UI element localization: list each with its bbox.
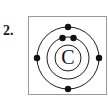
element-symbol-label: C — [61, 46, 74, 68]
inner-electron-1-dot — [59, 35, 65, 41]
screenshot-root: 2. C — [0, 0, 108, 102]
outer-electron-right-dot — [96, 55, 102, 61]
atomic-diagram-box: C — [28, 16, 107, 95]
outer-electron-top-dot — [65, 24, 71, 30]
outer-electron-bottom-dot — [65, 86, 71, 92]
bohr-model-diagram: C — [29, 17, 106, 94]
question-number-label: 2. — [3, 23, 14, 39]
outer-electron-left-dot — [34, 55, 40, 61]
inner-electron-2-dot — [70, 35, 76, 41]
